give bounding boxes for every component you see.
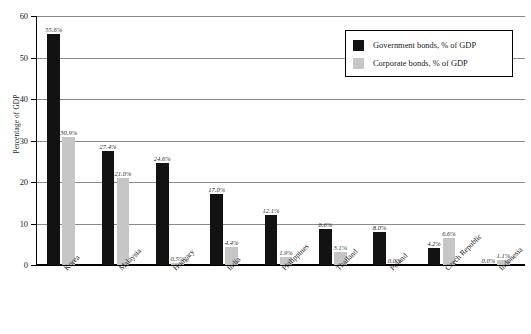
bar-government: 24.6%	[156, 163, 169, 265]
y-axis-title: Percentage of GDP	[13, 69, 21, 179]
bar-group: 27.4%21.0%	[102, 16, 130, 265]
legend-item-government-bonds: Government bonds, % of GDP	[353, 36, 505, 54]
bar-value-label: 4.4%	[225, 239, 239, 246]
bar-government: 55.6%	[47, 34, 60, 265]
bar-chart: Percentage of GDP 0102030405060 55.6%30.…	[0, 0, 531, 334]
bar-government: 8.6%	[319, 229, 332, 265]
y-tick-label: 50	[20, 53, 28, 62]
bar-value-label: 6.6%	[442, 230, 456, 237]
bar-value-label: 8.6%	[318, 221, 332, 228]
bar-value-label: 27.4%	[99, 143, 116, 150]
bar-government: 27.4%	[102, 151, 115, 265]
bar-corporate: 21.0%	[117, 178, 130, 265]
bar-corporate: 30.9%	[62, 137, 75, 265]
legend-swatch-corporate-bonds	[353, 58, 364, 69]
bar-value-label: 3.1%	[333, 244, 347, 251]
legend-item-corporate-bonds: Corporate bonds, % of GDP	[353, 54, 505, 72]
bar-value-label: 21.0%	[114, 170, 131, 177]
bar-government: 4.2%	[428, 248, 441, 265]
bar-group: 12.1%1.9%	[265, 16, 293, 265]
bar-government: 17.0%	[210, 194, 223, 265]
bar-value-label: 12.1%	[262, 207, 279, 214]
bar-value-label: 0.0%	[481, 257, 495, 264]
y-tick-label: 0	[24, 261, 28, 270]
bar-government: 12.1%	[265, 215, 278, 265]
bar-government: 8.0%	[373, 232, 386, 265]
bar-group: 8.6%3.1%	[319, 16, 347, 265]
bar-value-label: 24.6%	[154, 155, 171, 162]
bar-group: 17.0%4.4%	[210, 16, 238, 265]
y-tick-label: 10	[20, 219, 28, 228]
y-tick-label: 30	[20, 136, 28, 145]
y-tick-label: 40	[20, 95, 28, 104]
bar-value-label: 55.6%	[45, 26, 62, 33]
bar-value-label: 30.9%	[60, 129, 77, 136]
legend-label-government-bonds: Government bonds, % of GDP	[373, 41, 476, 50]
legend-label-corporate-bonds: Corporate bonds, % of GDP	[373, 59, 468, 68]
x-axis-category-labels: KoreaMalaysiaHungaryIndiaPhilippinesThai…	[37, 266, 525, 334]
bar-group: 55.6%30.9%	[47, 16, 75, 265]
bar-value-label: 4.2%	[427, 240, 441, 247]
y-tick-label: 20	[20, 178, 28, 187]
bar-value-label: 8.0%	[373, 224, 387, 231]
chart-legend: Government bonds, % of GDP Corporate bon…	[345, 30, 513, 77]
y-tick-label: 60	[20, 12, 28, 21]
bar-value-label: 17.0%	[208, 186, 225, 193]
bar-group: 24.6%0.5%	[156, 16, 184, 265]
legend-swatch-government-bonds	[353, 40, 364, 51]
